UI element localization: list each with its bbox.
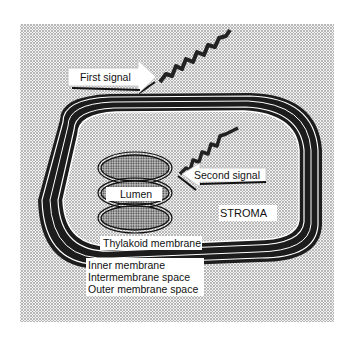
outer-membrane-space-label: Outer membrane space — [88, 284, 198, 295]
first-signal-label: First signal — [80, 72, 131, 83]
stroma-label: STROMA — [220, 208, 267, 219]
lumen-label: Lumen — [120, 189, 152, 200]
thylakoid-top — [101, 155, 169, 181]
intermembrane-space-label: Intermembrane space — [88, 272, 190, 283]
second-signal-label: Second signal — [194, 170, 260, 181]
thylakoid-membrane-label: Thylakoid membrane — [103, 238, 201, 249]
inner-membrane-label: Inner membrane — [88, 260, 165, 271]
thylakoid-bottom — [101, 206, 169, 230]
